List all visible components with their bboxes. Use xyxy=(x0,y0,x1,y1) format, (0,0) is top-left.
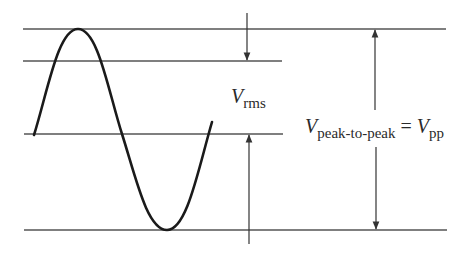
vrms-label: Vrms xyxy=(231,86,266,106)
vpp-symbol: V xyxy=(305,115,317,137)
vpp-label: Vpeak-to-peak=Vpp xyxy=(305,116,444,136)
sine-wave xyxy=(34,29,212,230)
vpp-short-symbol: V xyxy=(417,115,429,137)
vpp-subscript: peak-to-peak xyxy=(317,125,395,141)
vrms-subscript: rms xyxy=(243,95,266,111)
vrms-symbol: V xyxy=(231,85,243,107)
vpp-short-subscript: pp xyxy=(429,125,444,141)
equals-sign: = xyxy=(396,115,417,137)
